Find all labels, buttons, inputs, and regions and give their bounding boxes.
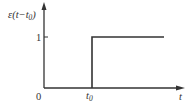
step-function-chart: ε(t−t0) 1 0 t0 t (0, 0, 195, 108)
x-axis-arrow-icon (176, 86, 185, 91)
y-tick-label-1: 1 (36, 32, 41, 43)
step-line (92, 37, 164, 88)
y-axis-label: ε(t−t0) (8, 9, 36, 22)
x-axis-label: t (179, 91, 183, 102)
origin-label: 0 (36, 91, 41, 102)
y-axis-arrow-icon (42, 2, 47, 10)
x-tick-label-t0: t0 (86, 90, 93, 103)
